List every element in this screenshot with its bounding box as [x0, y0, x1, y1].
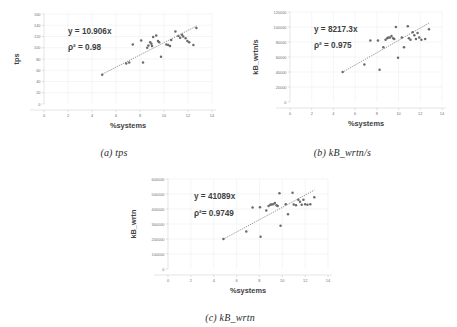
data-point — [409, 39, 412, 42]
data-point — [174, 30, 177, 33]
y-axis-title: kB_wrtn/s — [251, 39, 260, 74]
x-axis-tick-label: 4 — [91, 113, 94, 118]
data-point — [195, 27, 198, 30]
regression-equation-label: y = 8217.3x — [314, 25, 358, 34]
data-point — [184, 37, 187, 40]
data-point — [295, 204, 298, 207]
data-point — [150, 43, 153, 46]
data-point — [155, 34, 158, 37]
data-point — [142, 61, 145, 64]
x-axis-tick-label: 10 — [280, 278, 285, 283]
x-axis-title: %systems — [230, 286, 266, 295]
data-point — [407, 25, 410, 28]
data-point — [259, 236, 262, 239]
data-point — [128, 61, 131, 64]
x-axis-tick-label: 12 — [186, 113, 190, 118]
x-axis-tick-label: 0 — [289, 111, 292, 116]
data-point — [304, 203, 307, 206]
data-point — [401, 36, 404, 39]
data-point — [309, 203, 312, 206]
r-squared-label: ρ²= 0.9749 — [194, 209, 234, 218]
data-point — [397, 57, 400, 60]
data-point — [251, 206, 254, 209]
y-axis-tick-label: 0 — [284, 100, 287, 105]
y-axis-tick-label: 120000 — [274, 10, 288, 15]
data-point — [415, 38, 418, 41]
regression-equation-label: y = 41089x — [194, 192, 236, 201]
data-point — [259, 206, 262, 209]
figure-panel-c: 0100000200000300000400000500000600000024… — [110, 165, 350, 327]
y-axis-tick-label: 160 — [34, 12, 41, 17]
data-point — [369, 39, 372, 42]
data-point — [300, 204, 303, 207]
y-axis-tick-label: 400000 — [152, 207, 166, 212]
x-axis-tick-label: 2 — [311, 111, 313, 116]
data-point — [265, 209, 268, 212]
x-axis-tick-label: 8 — [139, 113, 141, 118]
x-axis-tick-label: 4 — [332, 111, 335, 116]
y-axis-tick-label: 600000 — [152, 177, 166, 182]
y-axis-tick-label: 140 — [34, 23, 41, 28]
data-point — [297, 198, 300, 201]
x-axis-tick-label: 14 — [440, 111, 445, 116]
data-point — [424, 38, 427, 41]
y-axis-tick-label: 120 — [34, 34, 41, 39]
x-axis-tick-label: 2 — [67, 113, 69, 118]
data-point — [245, 230, 248, 233]
data-point — [179, 36, 182, 39]
data-point — [274, 202, 277, 205]
x-axis-tick-label: 6 — [354, 111, 356, 116]
x-axis-tick-label: 14 — [326, 278, 331, 283]
data-point — [403, 46, 406, 49]
data-point — [390, 35, 393, 38]
data-point — [279, 225, 282, 228]
data-point — [222, 238, 225, 241]
data-point — [147, 44, 150, 47]
data-point — [284, 203, 287, 206]
figure-panel-a: 02040608010012014016002468101214%systems… — [0, 0, 228, 164]
data-point — [418, 36, 421, 39]
data-point — [170, 39, 173, 42]
x-axis-tick-label: 12 — [303, 278, 307, 283]
data-point — [287, 213, 290, 216]
data-point — [182, 35, 185, 38]
data-point — [291, 192, 294, 195]
data-point — [377, 39, 380, 42]
y-axis-tick-label: 300000 — [152, 222, 166, 227]
chart-c-kb-wrtn: 0100000200000300000400000500000600000024… — [110, 165, 350, 327]
data-point — [411, 31, 414, 34]
data-point — [101, 74, 104, 77]
x-axis-title: %systems — [348, 119, 384, 128]
y-axis-tick-label: 40 — [36, 79, 41, 84]
x-axis-tick-label: 8 — [376, 111, 378, 116]
data-point — [378, 69, 381, 72]
chart-b-kb-wrtn-s: 0200004000060000800001000001200000246810… — [228, 0, 457, 164]
data-point — [299, 201, 302, 204]
data-point — [192, 44, 195, 47]
data-point — [140, 39, 143, 42]
data-point — [158, 41, 161, 44]
x-axis-tick-label: 10 — [162, 113, 167, 118]
x-axis-tick-label: 0 — [43, 113, 46, 118]
r-squared-label: ρ² = 0.975 — [314, 41, 352, 50]
data-point — [395, 26, 398, 29]
x-axis-title: %systems — [110, 121, 146, 130]
y-axis-tick-label: 0 — [38, 102, 41, 107]
data-point — [302, 198, 305, 201]
y-axis-tick-label: 500000 — [152, 192, 166, 197]
scatter-plot-b-svg: 0200004000060000800001000001200000246810… — [228, 0, 457, 140]
data-point — [413, 34, 416, 37]
data-point — [382, 46, 385, 49]
data-point — [306, 204, 309, 207]
caption-b: (b) kB_wrtn/s — [228, 147, 457, 158]
x-axis-tick-label: 12 — [418, 111, 422, 116]
data-point — [188, 41, 191, 44]
r-squared-label: ρ² = 0.98 — [68, 43, 102, 52]
data-point — [278, 192, 281, 195]
data-point — [160, 56, 163, 59]
x-axis-tick-label: 4 — [213, 278, 216, 283]
data-point — [151, 45, 154, 48]
data-point — [146, 47, 149, 50]
y-axis-tick-label: 0 — [162, 267, 165, 272]
y-axis-tick-label: 80 — [36, 57, 41, 62]
